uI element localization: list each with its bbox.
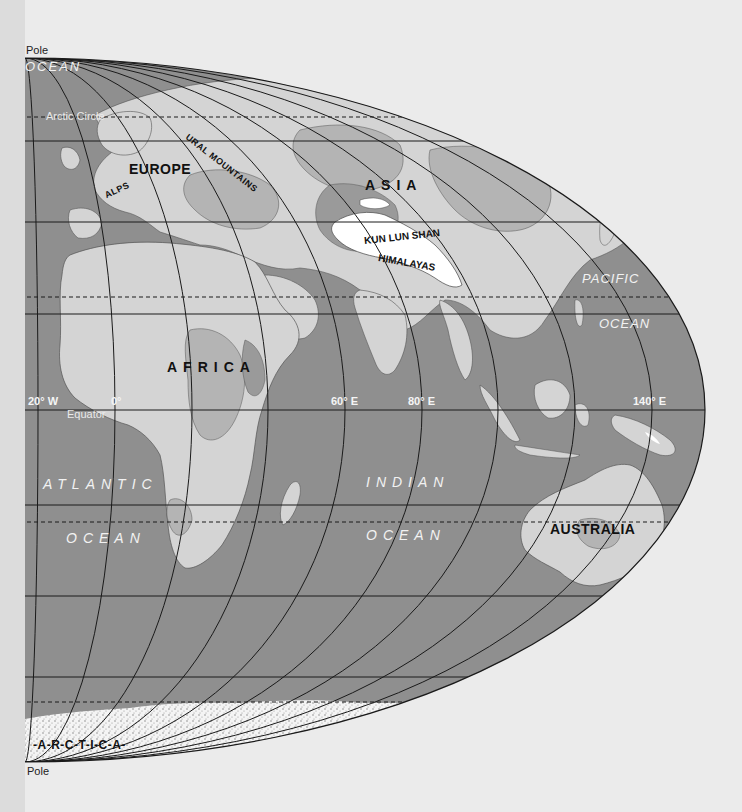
meridian-label-60e: 60° E — [331, 395, 358, 407]
asia-label: ASIA — [365, 177, 422, 193]
meridian-label-140e: 140° E — [633, 395, 666, 407]
indian-ocean-label-2: OCEAN — [366, 527, 446, 543]
europe-label: EUROPE — [129, 161, 191, 177]
arctic-circle-label: Arctic Circle — [46, 110, 105, 122]
pacific-ocean-label-2: OCEAN — [599, 316, 650, 331]
pacific-ocean-label: PACIFIC — [582, 271, 639, 286]
equator-label: Equator — [67, 408, 106, 420]
atlantic-ocean-label-2: OCEAN — [66, 530, 146, 546]
australia-label: AUSTRALIA — [550, 521, 635, 537]
north-pole-label: Pole — [26, 44, 48, 56]
arctic-ocean-label: OCEAN — [25, 59, 81, 74]
africa-label: AFRICA — [167, 359, 256, 375]
atlantic-ocean-label: ATLANTIC — [43, 476, 158, 492]
antarctica-label: -A-R-C-T-I-C-A- — [33, 738, 126, 752]
south-pole-label: Pole — [27, 765, 49, 777]
meridian-label-0: 0° — [111, 395, 122, 407]
meridian-label-20w: 20° W — [28, 395, 58, 407]
indian-ocean-label: INDIAN — [366, 474, 449, 490]
meridian-label-80e: 80° E — [408, 395, 435, 407]
